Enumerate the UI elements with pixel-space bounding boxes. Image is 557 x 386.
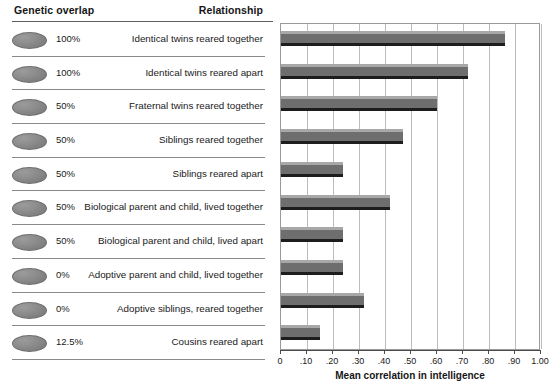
disc-shape (12, 335, 47, 357)
bar-row (281, 188, 541, 221)
gray-disc-icon (12, 229, 49, 253)
disc-top (12, 200, 47, 217)
genetic-overlap-value: 0% (56, 303, 70, 314)
table-header-row: Genetic overlap Relationship (0, 0, 277, 23)
genetic-overlap-value: 50% (56, 235, 75, 246)
disc-shape (12, 167, 47, 189)
genetic-overlap-table: Genetic overlap Relationship 100%Identic… (0, 0, 277, 386)
disc-shape (12, 133, 47, 155)
gray-disc-icon (12, 330, 49, 354)
genetic-overlap-value: 0% (56, 269, 70, 280)
gray-disc-icon (12, 94, 49, 118)
infographic-root: Genetic overlap Relationship 100%Identic… (0, 0, 557, 386)
disc-top (12, 167, 47, 184)
gray-disc-icon (12, 128, 49, 152)
gray-disc-icon (12, 61, 49, 85)
relationship-label: Identical twins reared together (132, 33, 263, 44)
table-row: 50%Biological parent and child, lived to… (12, 191, 265, 225)
bar (281, 195, 390, 210)
bar-row (281, 220, 541, 253)
disc-shape (12, 302, 47, 324)
axis-tick-label: .70 (456, 356, 469, 366)
table-row: 50%Siblings reared together (12, 124, 265, 158)
axis-tick-label: 0 (277, 356, 282, 366)
gridline (541, 24, 542, 349)
disc-shape (12, 66, 47, 88)
axis-tick (410, 350, 411, 354)
gray-disc-icon (12, 263, 49, 287)
disc-shape (12, 268, 47, 290)
table-row: 50%Fraternal twins reared together (12, 90, 265, 124)
disc-top (12, 234, 47, 251)
axis-tick (358, 350, 359, 354)
axis-tick (462, 350, 463, 354)
axis-tick-label: .60 (430, 356, 443, 366)
bar (281, 325, 320, 340)
bar (281, 227, 343, 242)
genetic-overlap-value: 12.5% (56, 336, 83, 347)
bar-row (281, 253, 541, 286)
relationship-label: Adoptive parent and child, lived togethe… (88, 269, 263, 280)
plot-area (280, 23, 540, 350)
axis-tick (436, 350, 437, 354)
relationship-label: Siblings reared together (159, 134, 263, 145)
disc-top (12, 268, 47, 285)
relationship-label: Siblings reared apart (173, 168, 263, 179)
disc-shape (12, 99, 47, 121)
bar (281, 293, 364, 308)
bar-row (281, 57, 541, 90)
disc-top (12, 32, 47, 49)
column-header-relationship: Relationship (199, 4, 263, 16)
table-row: 50%Biological parent and child, lived ap… (12, 225, 265, 259)
disc-shape (12, 234, 47, 256)
relationship-label: Biological parent and child, lived toget… (84, 201, 263, 212)
genetic-overlap-value: 50% (56, 100, 75, 111)
axis-tick (514, 350, 515, 354)
axis-tick (332, 350, 333, 354)
axis-tick-label: .20 (326, 356, 339, 366)
gray-disc-icon (12, 297, 49, 321)
disc-top (12, 99, 47, 116)
table-row: 0%Adoptive parent and child, lived toget… (12, 259, 265, 293)
table-row: 100%Identical twins reared together (12, 23, 265, 57)
disc-shape (12, 200, 47, 222)
relationship-label: Cousins reared apart (172, 336, 264, 347)
x-axis-label: Mean correlation in intelligence (280, 370, 540, 381)
axis-tick (280, 350, 281, 354)
disc-top (12, 133, 47, 150)
axis-tick-label: .40 (378, 356, 391, 366)
correlation-bar-chart: 0.10.20.30.40.50.60.70.80.901.00 Mean co… (279, 0, 557, 386)
bar-row (281, 122, 541, 155)
table-row: 0%Adoptive siblings, reared together (12, 293, 265, 327)
table-row: 12.5%Cousins reared apart (12, 326, 265, 360)
relationship-label: Adoptive siblings, reared together (117, 303, 263, 314)
disc-shape (12, 32, 47, 54)
disc-top (12, 302, 47, 319)
bar (281, 162, 343, 177)
genetic-overlap-value: 50% (56, 201, 75, 212)
bar (281, 64, 468, 79)
genetic-overlap-value: 50% (56, 134, 75, 145)
genetic-overlap-value: 100% (56, 33, 80, 44)
disc-top (12, 66, 47, 83)
axis-tick (540, 350, 541, 354)
bar-row (281, 318, 541, 351)
disc-top (12, 335, 47, 352)
gray-disc-icon (12, 27, 49, 51)
column-header-genetic-overlap: Genetic overlap (14, 4, 94, 16)
relationship-label: Biological parent and child, lived apart (98, 235, 263, 246)
genetic-overlap-value: 100% (56, 67, 80, 78)
bar (281, 129, 403, 144)
table-body: 100%Identical twins reared together100%I… (0, 23, 277, 360)
header-divider (12, 21, 273, 22)
table-row: 100%Identical twins reared apart (12, 57, 265, 91)
axis-tick (488, 350, 489, 354)
bar-row (281, 286, 541, 319)
bar-row (281, 24, 541, 57)
axis-tick (384, 350, 385, 354)
bar-row (281, 89, 541, 122)
axis-tick (306, 350, 307, 354)
axis-tick-label: .80 (482, 356, 495, 366)
bar (281, 96, 437, 111)
gray-disc-icon (12, 162, 49, 186)
